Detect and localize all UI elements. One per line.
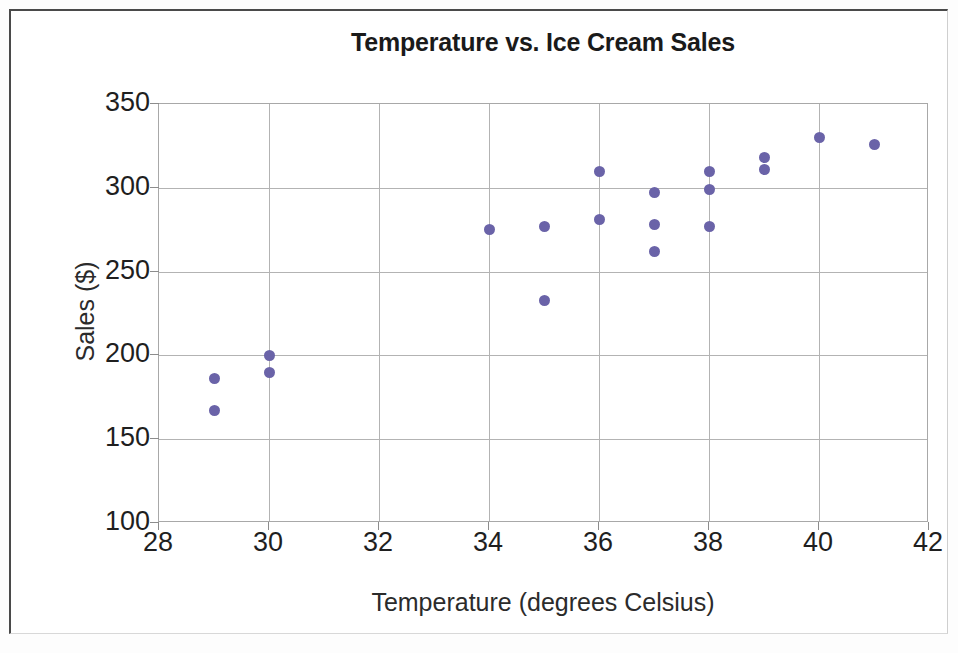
data-point (594, 214, 605, 225)
data-point (704, 184, 715, 195)
data-point (209, 373, 220, 384)
data-point (649, 187, 660, 198)
data-point (869, 139, 880, 150)
y-axis-tick-mark (150, 103, 159, 104)
data-point (814, 132, 825, 143)
data-point (759, 164, 770, 175)
data-point (759, 152, 770, 163)
horizontal-gridline (159, 272, 927, 273)
data-point (539, 295, 550, 306)
x-axis-tick-labels: 2830323436384042 (158, 529, 928, 569)
x-axis-tick-mark (818, 522, 819, 530)
horizontal-gridline (159, 439, 927, 440)
scatter-chart: Temperature vs. Ice Cream Sales 10015020… (0, 0, 958, 653)
vertical-gridline (379, 104, 380, 521)
data-point (264, 367, 275, 378)
y-axis-tick-mark (150, 438, 159, 439)
x-axis-tick-label: 32 (338, 529, 418, 556)
x-axis-tick-mark (378, 522, 379, 530)
vertical-gridline (489, 104, 490, 521)
data-point (539, 221, 550, 232)
data-point (649, 219, 660, 230)
x-axis-tick-mark (708, 522, 709, 530)
x-axis-tick-label: 42 (888, 529, 958, 556)
vertical-gridline (819, 104, 820, 521)
x-axis-tick-label: 40 (778, 529, 858, 556)
data-point (704, 166, 715, 177)
plot-area (158, 103, 928, 522)
x-axis-tick-mark (268, 522, 269, 530)
y-axis-tick-mark (150, 271, 159, 272)
y-axis-tick-mark (150, 187, 159, 188)
vertical-gridline (269, 104, 270, 521)
horizontal-gridline (159, 188, 927, 189)
data-point (264, 350, 275, 361)
x-axis-tick-label: 38 (668, 529, 748, 556)
data-point (484, 224, 495, 235)
data-point (209, 405, 220, 416)
x-axis-tick-mark (488, 522, 489, 530)
x-axis-tick-label: 36 (558, 529, 638, 556)
x-axis-tick-mark (928, 522, 929, 530)
x-axis-tick-label: 30 (228, 529, 308, 556)
x-axis-tick-mark (158, 522, 159, 530)
x-axis-title: Temperature (degrees Celsius) (158, 588, 928, 617)
y-axis-tick-mark (150, 354, 159, 355)
data-point (649, 246, 660, 257)
scanned-page-background: Temperature vs. Ice Cream Sales 10015020… (0, 0, 958, 653)
data-point (594, 166, 605, 177)
x-axis-tick-label: 28 (118, 529, 198, 556)
data-point (704, 221, 715, 232)
chart-title: Temperature vs. Ice Cream Sales (158, 28, 928, 57)
plot-inner (159, 104, 927, 521)
y-axis-title: Sales ($) (71, 102, 100, 522)
x-axis-tick-label: 34 (448, 529, 528, 556)
x-axis-tick-mark (598, 522, 599, 530)
